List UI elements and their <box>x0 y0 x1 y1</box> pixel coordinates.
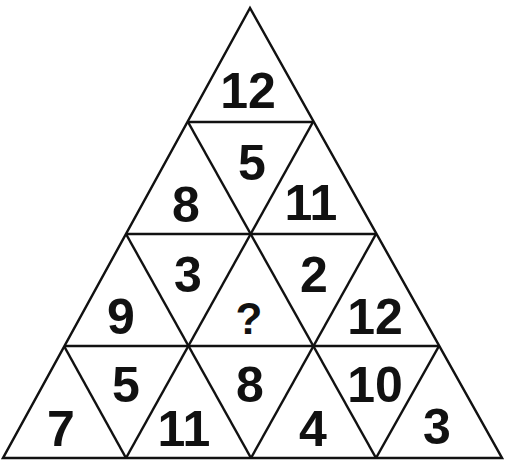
cell-r3-c0: 7 <box>47 401 75 457</box>
diag-line <box>126 122 313 458</box>
cell-r0-c0: 12 <box>220 63 276 119</box>
cell-r2-c0: 9 <box>107 289 135 345</box>
cell-r1-c2: 11 <box>285 175 338 231</box>
triangle-puzzle: 12 8 5 11 9 3 ? 2 12 7 5 11 8 4 10 3 <box>0 0 508 470</box>
cell-r2-c4: 12 <box>347 289 403 345</box>
cell-r3-c5: 10 <box>347 357 403 413</box>
cell-r2-c3: 2 <box>300 247 328 303</box>
cell-r3-c2: 11 <box>158 401 211 457</box>
cell-r2-c2-missing: ? <box>236 294 263 343</box>
cell-r3-c1: 5 <box>112 357 140 413</box>
cell-r1-c1: 5 <box>238 135 266 191</box>
cell-r2-c1: 3 <box>174 247 202 303</box>
cell-r3-c6: 3 <box>423 399 451 455</box>
cell-r1-c0: 8 <box>172 177 200 233</box>
cell-r3-c4: 4 <box>299 401 327 457</box>
cell-r3-c3: 8 <box>236 357 264 413</box>
